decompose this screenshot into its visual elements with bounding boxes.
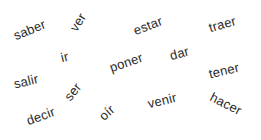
word-cloud-item: traer [207,14,237,34]
word-cloud-item: poner [108,51,145,74]
word-cloud-item: ser [62,80,84,103]
word-cloud-item: salir [13,72,40,90]
word-cloud-item: dar [168,44,190,62]
word-cloud-item: decir [25,105,57,127]
word-cloud-item: saber [12,17,48,42]
word-cloud-item: hacer [208,90,244,117]
word-cloud-item: ver [67,11,88,34]
word-cloud-item: estar [132,14,165,37]
word-cloud-item: tener [208,61,241,81]
word-cloud-item: ir [59,50,70,64]
word-cloud-canvas: saberverestartraerirponerdartenersalirse… [0,0,261,140]
word-cloud-item: oír [97,103,117,123]
word-cloud-item: venir [146,91,177,111]
